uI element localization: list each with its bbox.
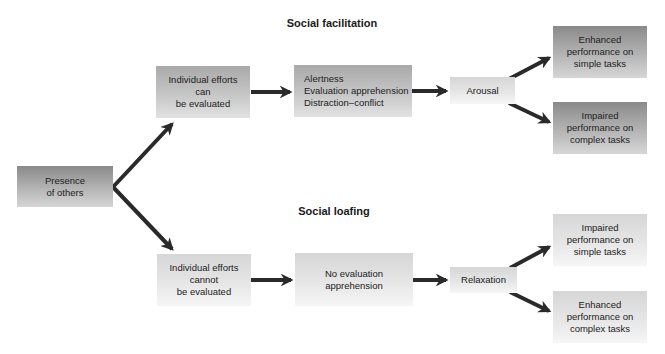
box-text-line: be evaluated <box>168 98 237 110</box>
box-text-line: Impaired <box>567 222 634 234</box>
box-efforts-cannot-be-evaluated: Individual efforts cannot be evaluated <box>157 254 251 306</box>
box-text-line: Presence <box>45 175 85 187</box>
box-text-line: performance on <box>567 311 634 323</box>
box-no-evaluation-apprehension: No evaluation apprehension <box>295 253 413 306</box>
box-text-line: simple tasks <box>567 58 634 70</box>
box-text-line: complex tasks <box>567 134 634 146</box>
arrow-arousal-to-impaired-complex <box>509 103 549 122</box>
box-arousal: Arousal <box>450 77 515 104</box>
box-text-line: performance on <box>567 122 634 134</box>
box-text-line: Enhanced <box>567 299 634 311</box>
box-text-line: Evaluation apprehension <box>304 85 409 97</box>
arrow-relaxation-to-impaired-simple <box>510 247 549 268</box>
title-social-facilitation: Social facilitation <box>287 17 377 29</box>
title-social-loafing: Social loafing <box>298 205 370 217</box>
box-text-line: complex tasks <box>567 323 634 335</box>
box-impaired-complex-tasks: Impaired performance on complex tasks <box>553 102 647 154</box>
box-text-line: apprehension <box>325 280 383 292</box>
box-text-line: Alertness <box>304 73 409 85</box>
arrow-relaxation-to-enhanced-complex <box>510 292 549 311</box>
box-text-line: of others <box>45 187 85 199</box>
box-text-line: Individual efforts <box>168 74 237 86</box>
box-text-line: performance on <box>567 234 634 246</box>
box-efforts-can-be-evaluated: Individual efforts can be evaluated <box>156 66 250 118</box>
box-enhanced-complex-tasks: Enhanced performance on complex tasks <box>553 291 647 343</box>
box-text-line: No evaluation <box>325 268 383 280</box>
arrow-root-to-can-evaluate <box>113 124 172 187</box>
box-text-line: can <box>168 86 237 98</box>
box-text-line: Arousal <box>466 85 498 97</box>
box-text-line: Enhanced <box>567 34 634 46</box>
box-relaxation: Relaxation <box>450 267 517 293</box>
arrow-root-to-cannot-evaluate <box>113 187 172 249</box>
box-text-line: performance on <box>567 46 634 58</box>
box-text-line: Distraction–conflict <box>304 97 409 109</box>
box-text-line: be evaluated <box>169 286 238 298</box>
box-presence-of-others: Presence of others <box>17 166 113 207</box>
box-impaired-simple-tasks: Impaired performance on simple tasks <box>553 214 647 266</box>
box-facilitation-mechanisms: Alertness Evaluation apprehension Distra… <box>294 65 412 117</box>
box-text-line: Relaxation <box>461 274 506 286</box>
arrow-arousal-to-enhanced-simple <box>509 58 549 79</box>
box-text-line: cannot <box>169 274 238 286</box>
box-text-line: Individual efforts <box>169 262 238 274</box>
box-enhanced-simple-tasks: Enhanced performance on simple tasks <box>553 26 647 78</box>
box-text-line: simple tasks <box>567 246 634 258</box>
box-text-line: Impaired <box>567 110 634 122</box>
